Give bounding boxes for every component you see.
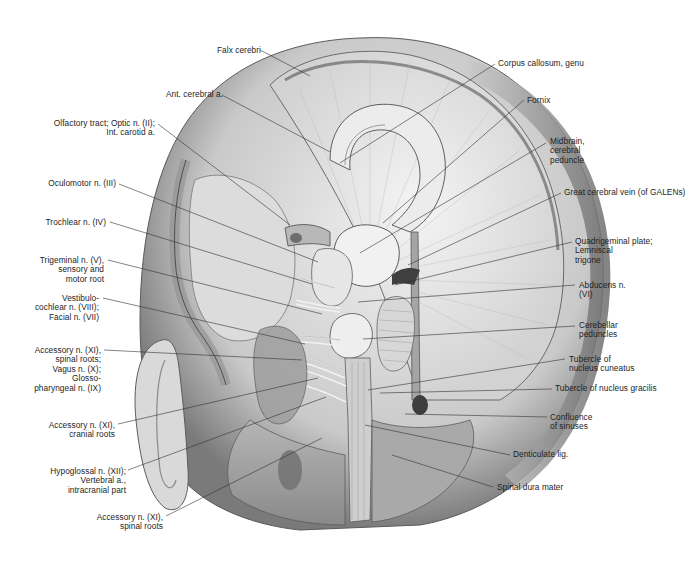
label-accessory-spinal: Accessory n. (XI), spinal roots (60, 513, 163, 532)
label-hypoglossal-vertebral: Hypoglossal n. (XII); Vertebral a., intr… (40, 467, 126, 495)
label-ant-cerebral-a: Ant. cerebral a. (166, 90, 223, 99)
label-vestibulocochlear-facial: Vestibulo- cochlear n. (VIII); Facial n.… (25, 294, 99, 322)
label-spinal-dura-mater: Spinal dura mater (497, 483, 563, 492)
label-midbrain-peduncle: Midbrain, cerebral peduncle (550, 137, 585, 165)
label-trigeminal-n: Trigeminal n. (V), sensory and motor roo… (30, 256, 104, 284)
label-accessory-cranial: Accessory n. (XI), cranial roots (40, 421, 115, 440)
label-corpus-callosum-genu: Corpus callosum, genu (498, 59, 584, 68)
label-tubercle-gracilis: Tubercle of nucleus gracilis (555, 384, 657, 393)
label-denticulate-lig: Denticulate lig. (513, 450, 568, 459)
label-falx-cerebri: Falx cerebri (217, 46, 261, 55)
label-abducens-n: Abducens n. (VI) (579, 281, 626, 300)
label-olfactory-optic-carotid: Olfactory tract; Optic n. (II); Int. car… (44, 119, 155, 138)
label-quadrigeminal-plate: Quadrigeminal plate; Lemniscal trigone (575, 237, 653, 265)
label-confluence-sinuses: Confluence of sinuses (550, 413, 592, 432)
label-cerebellar-peduncles: Cerebellar peduncles (579, 321, 618, 340)
label-trochlear-n: Trochlear n. (IV) (40, 218, 106, 227)
label-oculomotor-n: Oculomotor n. (III) (40, 179, 116, 188)
label-fornix: Fornix (527, 96, 550, 105)
label-tubercle-cuneatus: Tubercle of nucleus cuneatus (569, 355, 634, 374)
label-accessory-vagus-glosso: Accessory n. (XI), spinal roots; Vagus n… (25, 346, 101, 393)
label-great-cerebral-vein: Great cerebral vein (of GALENs) (564, 188, 685, 197)
